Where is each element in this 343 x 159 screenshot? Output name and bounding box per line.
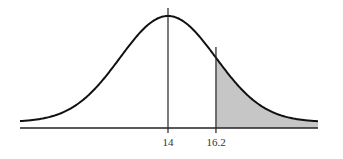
cutoff-tick-label: 16.2 — [206, 136, 225, 148]
shaded-tail-area — [216, 58, 318, 128]
normal-curve — [20, 16, 318, 121]
mean-tick-label: 14 — [163, 136, 174, 148]
